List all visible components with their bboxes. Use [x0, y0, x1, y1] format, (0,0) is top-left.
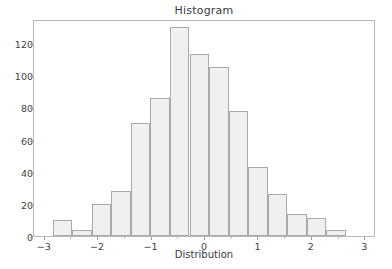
- x-tick-mark: [311, 237, 312, 240]
- x-tick-mark: [257, 237, 258, 240]
- x-tick-mark: [204, 237, 205, 240]
- x-axis: −3−2−10123: [0, 0, 392, 269]
- x-tick-mark: [364, 237, 365, 240]
- x-minor-tick-mark: [231, 237, 232, 239]
- x-tick-mark: [44, 237, 45, 240]
- x-minor-tick-mark: [124, 237, 125, 239]
- x-tick-mark: [97, 237, 98, 240]
- x-minor-tick-mark: [177, 237, 178, 239]
- x-axis-label: Distribution: [33, 249, 375, 260]
- x-minor-tick-mark: [338, 237, 339, 239]
- histogram-figure: Histogram 020406080100120 −3−2−10123 Dis…: [0, 0, 392, 269]
- x-minor-tick-mark: [70, 237, 71, 239]
- x-tick-mark: [151, 237, 152, 240]
- x-minor-tick-mark: [284, 237, 285, 239]
